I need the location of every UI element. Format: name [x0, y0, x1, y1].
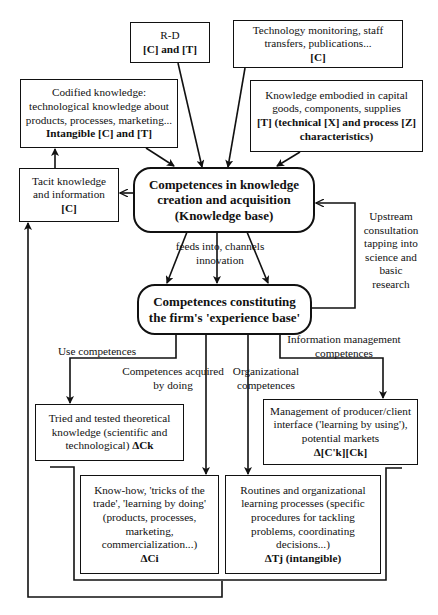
knowledge-competences-diagram: R-D [C] and [T] Technology monitoring, s…: [0, 0, 438, 615]
codified-line1: Codified knowledge:: [52, 86, 146, 100]
mgmt-line2: interface ('learning by using'),: [274, 418, 408, 432]
mgmt-tag: Δ[C'k][Ck]: [314, 446, 368, 460]
node-routines: Routines and organizational learning pro…: [225, 475, 381, 574]
acquired-line1: Competences acquired: [118, 365, 228, 379]
eb-line1: Competences constituting: [153, 294, 296, 310]
org-line2: competences: [226, 379, 306, 393]
arrow-rd-to-kb: [178, 63, 202, 167]
knowhow-line1: Know-how, 'tricks of the: [94, 484, 205, 498]
info-line1: Information management: [283, 333, 405, 347]
eb-line2: the firm's 'experience base': [149, 310, 300, 326]
upstream-line4: science and: [356, 251, 426, 265]
routines-line5: decisions...): [276, 538, 330, 552]
tacit-line2: and information: [33, 188, 105, 202]
upstream-line5: basic: [356, 264, 426, 278]
rd-title: R-D: [160, 29, 179, 43]
knowhow-tag: ΔCi: [140, 552, 158, 566]
label-organizational: Organizational competences: [226, 365, 306, 392]
tried-tag: technological) ΔCk: [65, 439, 153, 451]
label-upstream: Upstream consultation tapping into scien…: [356, 210, 426, 292]
node-management-interface: Management of producer/client interface …: [263, 399, 418, 465]
tech-tag: [C]: [310, 51, 326, 65]
kb-line1: Competences in knowledge: [149, 177, 299, 193]
tech-line2: transfers, publications...: [264, 37, 371, 51]
routines-line2: learning processes (specific: [241, 497, 365, 511]
knowhow-line3: (products, processes,: [103, 511, 197, 525]
node-tacit-knowledge: Tacit knowledge and information [C]: [19, 168, 119, 222]
upstream-line6: research: [356, 278, 426, 292]
routines-line3: procedures for tackling: [251, 511, 355, 525]
tried-delta: ΔCk: [132, 439, 153, 451]
arrow-embodied-to-kb: [277, 152, 300, 166]
knowhow-line2: trade', 'learning by doing': [93, 497, 206, 511]
org-line1: Organizational: [226, 365, 306, 379]
label-acquired-by-doing: Competences acquired by doing: [118, 365, 228, 392]
mgmt-line3: potential markets: [302, 432, 379, 446]
node-tech-monitoring: Technology monitoring, staff transfers, …: [233, 20, 403, 68]
codified-line2: technological knowledge about: [29, 100, 169, 114]
node-embodied-knowledge: Knowledge embodied in capital goods, com…: [250, 80, 423, 152]
tech-line1: Technology monitoring, staff: [253, 24, 383, 38]
label-feeds-into: feeds into, channels innovation: [170, 240, 270, 267]
arrow-upstream-loop: [311, 203, 355, 308]
node-tried-tested: Tried and tested theoretical knowledge (…: [35, 404, 184, 461]
label-info-management: Information management competences: [283, 333, 405, 360]
tacit-line1: Tacit knowledge: [32, 175, 106, 189]
codified-line3: products, processes, marketing...: [26, 114, 172, 128]
node-knowledge-base: Competences in knowledge creation and ac…: [133, 167, 315, 233]
upstream-line1: Upstream: [356, 210, 426, 224]
node-rd: R-D [C] and [T]: [130, 22, 210, 63]
codified-tag: Intangible [C] and [T]: [46, 127, 152, 141]
node-know-how: Know-how, 'tricks of the trade', 'learni…: [80, 475, 219, 574]
tried-line2: knowledge (scientific and: [52, 426, 168, 440]
embodied-line4: characteristics): [300, 130, 373, 144]
knowhow-line5: commercialization...): [102, 538, 197, 552]
embodied-line2: goods, components, supplies: [272, 102, 401, 116]
kb-line3: (Knowledge base): [175, 208, 274, 224]
embodied-line3: [T] (technical [X] and process [Z]: [257, 116, 416, 130]
tacit-tag: [C]: [61, 202, 77, 216]
knowhow-line4: marketing,: [125, 525, 173, 539]
routines-line4: problems, coordinating: [251, 525, 355, 539]
info-line2: competences: [283, 347, 405, 361]
node-experience-base: Competences constituting the firm's 'exp…: [137, 284, 312, 335]
arrow-codified-to-kb: [146, 148, 174, 166]
tried-line3: technological) ΔCk: [65, 439, 153, 453]
tried-line1: Tried and tested theoretical: [49, 412, 171, 426]
upstream-line2: consultation: [356, 224, 426, 238]
feeds-line1: feeds into, channels: [170, 240, 270, 254]
rd-tags: [C] and [T]: [143, 43, 197, 57]
acquired-line2: by doing: [118, 379, 228, 393]
mgmt-line1: Management of producer/client: [270, 405, 411, 419]
embodied-line1: Knowledge embodied in capital: [265, 89, 408, 103]
kb-line2: creation and acquisition: [157, 192, 290, 208]
upstream-line3: tapping into: [356, 237, 426, 251]
feeds-line2: innovation: [170, 254, 270, 268]
arrow-tech-to-kb: [228, 68, 245, 167]
routines-line1: Routines and organizational: [240, 484, 365, 498]
node-codified-knowledge: Codified knowledge: technological knowle…: [20, 79, 178, 148]
use-line1: Use competences: [52, 345, 142, 359]
label-use-competences: Use competences: [52, 345, 142, 359]
routines-tag: ΔTj (intangible): [265, 552, 341, 566]
